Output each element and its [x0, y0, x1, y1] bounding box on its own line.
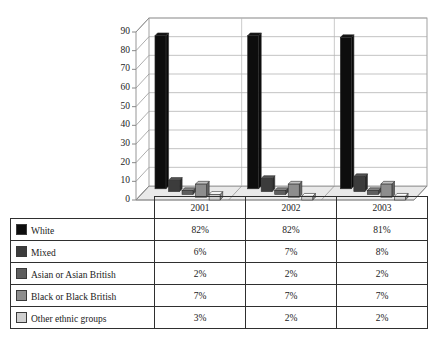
y-axis-tick-label: 10 [104, 176, 130, 186]
bar-front-face [169, 180, 180, 191]
bar-3d [155, 33, 169, 189]
legend-row-4: Other ethnic groups [11, 307, 155, 329]
bar-3d [381, 181, 395, 197]
bar-top-face [248, 33, 262, 36]
table-row: Other ethnic groups3%2%2% [11, 307, 428, 329]
y-axis-depth-tick [136, 37, 149, 51]
bar-top-face [275, 188, 289, 191]
y-axis-depth-tick [136, 111, 149, 125]
bar-3d [248, 33, 262, 189]
legend-row-1: Mixed [11, 241, 155, 263]
y-axis-tick-label: 30 [104, 139, 130, 149]
legend-swatch-icon [16, 224, 27, 235]
y-axis-tick-label: 40 [104, 120, 130, 130]
table-year-header-2001: 2001 [155, 197, 246, 219]
y-axis-tick-label: 50 [104, 102, 130, 112]
legend-swatch-icon [16, 268, 27, 279]
legend-row-0: White [11, 219, 155, 241]
bar-front-face [155, 36, 166, 189]
table-year-header-2003: 2003 [337, 197, 428, 219]
chart-canvas [0, 14, 447, 204]
bar-3d [354, 174, 368, 192]
table-cell: 7% [337, 285, 428, 307]
table-year-header-row: 200120022003 [11, 197, 428, 219]
bar-side-face [166, 33, 169, 189]
table-row: Mixed6%7%8% [11, 241, 428, 263]
legend-row-3: Black or Black British [11, 285, 155, 307]
chart-page: 0102030405060708090 200120022003White82%… [0, 0, 447, 353]
table-cell: 2% [337, 263, 428, 285]
bar-chart: 0102030405060708090 [0, 14, 447, 204]
y-axis-depth-tick [136, 74, 149, 88]
legend-swatch-icon [16, 312, 27, 323]
table-cell: 82% [246, 219, 337, 241]
y-axis-tick-label: 70 [104, 64, 130, 74]
legend-label: Black or Black British [31, 292, 116, 302]
bar-top-face [261, 176, 275, 179]
bar-front-face [354, 177, 365, 192]
bar-3d [288, 181, 302, 197]
table-cell: 3% [155, 307, 246, 329]
bar-top-face [209, 192, 223, 195]
table-cell: 82% [155, 219, 246, 241]
y-axis-depth-tick [136, 130, 149, 144]
legend-label: Other ethnic groups [31, 314, 106, 324]
y-axis-depth-tick [136, 149, 149, 163]
bar-top-face [340, 35, 354, 38]
bar-3d [275, 188, 289, 195]
y-axis-depth-tick [136, 55, 149, 69]
bar-top-face [155, 33, 169, 36]
bar-top-face [288, 181, 302, 184]
legend-label: White [31, 226, 54, 236]
bar-front-face [275, 191, 286, 195]
y-axis-depth-tick [136, 93, 149, 107]
bar-side-face [351, 35, 354, 189]
legend-row-2: Asian or Asian British [11, 263, 155, 285]
legend-label: Asian or Asian British [31, 270, 116, 280]
y-axis-top-depth-line [136, 18, 149, 32]
bar-top-face [196, 181, 210, 184]
table-cell: 81% [337, 219, 428, 241]
table-year-header-2002: 2002 [246, 197, 337, 219]
bar-3d [169, 178, 183, 192]
data-legend-table: 200120022003White82%82%81%Mixed6%7%8%Asi… [10, 196, 428, 329]
bar-front-face [367, 191, 378, 195]
table-cell: 2% [246, 307, 337, 329]
bar-top-face [169, 178, 183, 181]
y-axis-depth-tick [136, 167, 149, 181]
legend-swatch-icon [16, 246, 27, 257]
bar-front-face [261, 179, 272, 192]
table-cell: 8% [337, 241, 428, 263]
bar-front-face [340, 38, 351, 189]
bar-3d [340, 35, 354, 189]
table-header-spacer [11, 197, 155, 219]
y-axis-tick-label: 60 [104, 83, 130, 93]
chart-back-wall [149, 18, 427, 186]
table-cell: 7% [155, 285, 246, 307]
legend-swatch-icon [16, 290, 27, 301]
y-axis-tick-label: 90 [104, 27, 130, 37]
bar-top-face [354, 174, 368, 177]
bar-front-face [248, 36, 259, 189]
table-cell: 6% [155, 241, 246, 263]
bar-side-face [259, 33, 262, 189]
table-cell: 2% [337, 307, 428, 329]
bar-top-face [182, 188, 196, 191]
bar-3d [367, 188, 381, 195]
bar-front-face [182, 191, 193, 195]
y-axis-tick-label: 80 [104, 46, 130, 56]
bar-3d [182, 188, 196, 195]
y-axis-tick-label: 20 [104, 158, 130, 168]
table-cell: 2% [246, 263, 337, 285]
table-cell: 7% [246, 241, 337, 263]
table-row: Black or Black British7%7%7% [11, 285, 428, 307]
table-cell: 2% [155, 263, 246, 285]
bar-top-face [367, 188, 381, 191]
bar-top-face [381, 181, 395, 184]
table-row: Asian or Asian British2%2%2% [11, 263, 428, 285]
bar-3d [261, 176, 275, 192]
legend-label: Mixed [31, 248, 56, 258]
table-cell: 7% [246, 285, 337, 307]
bar-3d [196, 181, 210, 197]
table-row: White82%82%81% [11, 219, 428, 241]
